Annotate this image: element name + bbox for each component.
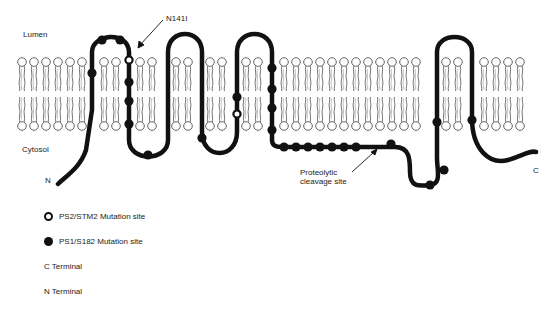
cleavage-label-line2: cleavage site [300, 177, 347, 186]
cleavage-label-line1: Proteolytic [300, 168, 337, 177]
legend-label: PS2/STM2 Mutation site [59, 212, 145, 221]
legend-item-ps2: PS2/STM2 Mutation site [44, 212, 145, 221]
n-terminus-label: N [45, 176, 51, 185]
filled-circle-icon [44, 237, 53, 246]
mutation-callout-label: N141I [166, 14, 187, 23]
legend-item-ps1: PS1/S182 Mutation site [44, 237, 143, 246]
lumen-label: Lumen [23, 30, 47, 39]
legend-n-terminal: N Terminal [44, 287, 82, 296]
cytosol-label: Cytosol [22, 145, 49, 154]
open-circle-icon [44, 212, 53, 221]
legend-label: PS1/S182 Mutation site [59, 237, 143, 246]
legend-c-terminal: C Terminal [44, 262, 82, 271]
c-terminus-label: C [533, 166, 539, 175]
membrane-topology-diagram [0, 0, 552, 310]
